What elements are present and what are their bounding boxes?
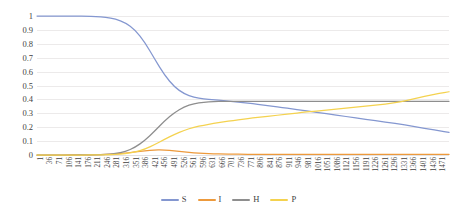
legend-swatch-icon [270,199,288,201]
x-axis-tick-label: 876 [277,157,284,168]
series-lines [37,16,449,155]
x-axis-tick-label: 141 [76,157,83,168]
legend-item-i[interactable]: I [198,195,222,204]
x-axis-tick-label: 1051 [325,157,332,171]
y-axis-tick-label: 0 [0,151,33,160]
x-axis-tick-label: 1261 [383,157,390,171]
x-axis-tick-label: 1191 [364,157,371,171]
x-axis-tick-label: 1 [38,157,45,161]
legend-label: I [219,195,222,204]
x-axis-tick-label: 666 [220,157,227,168]
x-axis-tick-label: 701 [229,157,236,168]
plot-area [37,16,449,155]
x-axis-tick-label: 491 [172,157,179,168]
series-line-h [37,101,449,155]
y-axis-tick-label: 0.9 [0,26,33,35]
y-axis-tick-label: 0.6 [0,68,33,77]
y-axis-tick-label: 0.1 [0,137,33,146]
x-axis-tick-label: 561 [191,157,198,168]
x-axis-tick-label: 736 [239,157,246,168]
x-axis-tick-label: 1366 [411,157,418,171]
legend-label: H [253,195,259,204]
y-axis-tick-label: 0.5 [0,82,33,91]
y-axis: 00.10.20.30.40.50.60.70.80.91 [0,0,33,171]
x-axis-tick-label: 1156 [354,157,361,171]
x-axis-tick-label: 596 [201,157,208,168]
x-axis-tick-label: 106 [67,157,74,168]
x-axis-tick-label: 456 [162,157,169,168]
x-axis-tick-label: 211 [95,157,102,168]
x-axis-tick-label: 841 [268,157,275,168]
line-chart: 00.10.20.30.40.50.60.70.80.91 1367110614… [0,0,457,211]
legend-swatch-icon [198,199,216,201]
x-axis-tick-label: 1086 [335,157,342,171]
x-axis-tick-label: 1016 [316,157,323,171]
legend-item-s[interactable]: S [161,195,187,204]
legend-swatch-icon [232,199,250,201]
x-axis-tick-label: 71 [57,157,64,164]
x-axis-tick-label: 911 [287,157,294,168]
x-axis-tick-label: 1331 [402,157,409,171]
x-axis-tick-label: 806 [258,157,265,168]
x-axis-tick-label: 421 [153,157,160,168]
legend-swatch-icon [161,199,179,201]
x-axis-tick-label: 281 [114,157,121,168]
legend-item-h[interactable]: H [232,195,259,204]
x-axis-tick-label: 526 [182,157,189,168]
x-axis-tick-label: 1121 [344,157,351,171]
series-line-s [37,16,449,132]
x-axis-tick-label: 36 [47,157,54,164]
legend-label: S [182,195,187,204]
x-axis-tick-label: 1226 [373,157,380,171]
x-axis-tick-label: 1471 [440,157,447,171]
x-axis-tick-label: 176 [86,157,93,168]
y-axis-tick-label: 1 [0,12,33,21]
x-axis-tick-label: 631 [210,157,217,168]
x-axis-tick-label: 946 [296,157,303,168]
chart-legend: SIHP [0,192,457,207]
y-axis-tick-label: 0.4 [0,95,33,104]
x-axis-tick-label: 386 [143,157,150,168]
y-axis-tick-label: 0.7 [0,54,33,63]
x-axis-tick-label: 246 [105,157,112,168]
x-axis-tick-label: 1401 [421,157,428,171]
x-axis: 1367110614117621124628131635138642145649… [37,157,449,191]
x-axis-tick-label: 1436 [431,157,438,171]
y-axis-tick-label: 0.8 [0,40,33,49]
x-axis-tick-label: 351 [134,157,141,168]
x-axis-tick-label: 771 [249,157,256,168]
x-axis-tick-label: 981 [306,157,313,168]
y-axis-tick-label: 0.3 [0,109,33,118]
x-axis-tick-label: 316 [124,157,131,168]
legend-label: P [291,195,296,204]
x-axis-tick-label: 1296 [392,157,399,171]
legend-item-p[interactable]: P [270,195,296,204]
y-axis-tick-label: 0.2 [0,123,33,132]
